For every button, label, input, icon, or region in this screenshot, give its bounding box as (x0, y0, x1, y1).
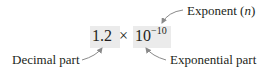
decimal-arrow (82, 48, 102, 60)
arrows (0, 0, 265, 72)
exponential-arrow (146, 48, 166, 60)
exponent-arrow (162, 10, 183, 23)
